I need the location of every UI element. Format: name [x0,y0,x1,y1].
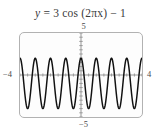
y-axis-max-label: 5 [3,21,161,31]
plot-canvas [20,33,142,117]
equation-minus-sign: − [110,7,117,19]
plot-area [19,32,143,118]
y-axis-min-label: −5 [3,119,161,129]
equation-vertical-shift: 1 [120,7,126,19]
x-axis-min-label: −4 [3,69,12,79]
equation-argument: (2πx) [81,7,107,19]
graph-figure: y = 3 cos (2πx) − 1 5 −5 −4 4 [0,0,161,137]
equation-caption: y = 3 cos (2πx) − 1 [0,7,161,19]
equation-function-name: cos [62,7,78,19]
x-axis-max-label: 4 [147,69,151,79]
